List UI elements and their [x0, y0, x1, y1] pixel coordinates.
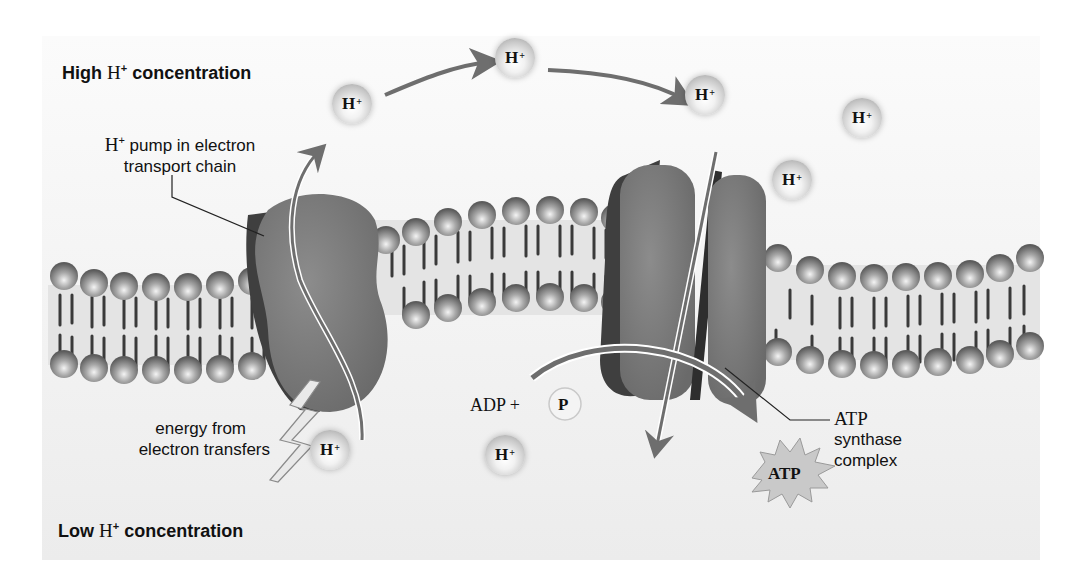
atp-synthase-protein — [600, 160, 766, 405]
hydrogen-ion: H+ — [332, 84, 372, 124]
energy-label: energy from electron transfers — [90, 418, 270, 460]
hydrogen-ion: H+ — [485, 435, 525, 475]
hydrogen-ion: H+ — [685, 75, 725, 115]
hydrogen-ion: H+ — [310, 430, 350, 470]
diagram-canvas: High H+ concentration H+ pump in electro… — [0, 0, 1072, 580]
hydrogen-ion: H+ — [495, 38, 535, 78]
high-concentration-label: High H+ concentration — [62, 58, 251, 84]
atp-product-label: ATP — [768, 463, 801, 484]
hydrogen-ion: H+ — [842, 98, 882, 138]
low-concentration-label: Low H+ concentration — [58, 516, 243, 542]
hydrogen-ion: H+ — [772, 160, 812, 200]
atp-synthase-label: ATP synthase complex — [834, 408, 902, 471]
membrane-illustration — [0, 0, 1072, 580]
adp-label: ADP + — [470, 395, 520, 416]
phosphate-label: P — [558, 394, 568, 415]
pump-label: H+ pump in electron transport chain — [80, 130, 280, 177]
